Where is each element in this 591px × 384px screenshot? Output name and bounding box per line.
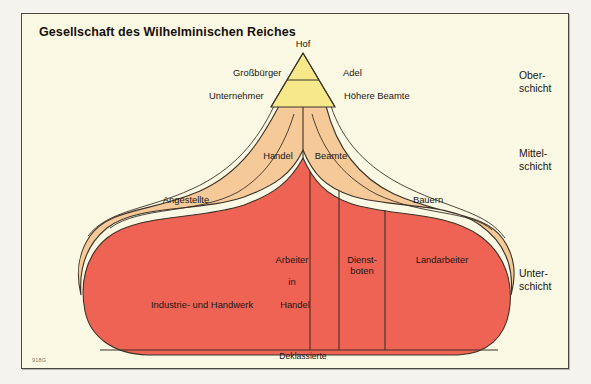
label-angestellte: Angestellte bbox=[163, 194, 209, 205]
label-arbeiter-in: in bbox=[288, 276, 295, 287]
label-adel: Adel bbox=[343, 67, 362, 78]
stratum-label-mittelschicht: Mittel- schicht bbox=[519, 148, 551, 173]
label-unternehmer: Unternehmer bbox=[209, 90, 264, 101]
stratum-label-unterschicht: Unter- schicht bbox=[519, 268, 551, 293]
label-deklassierte: Deklassierte bbox=[279, 351, 326, 362]
label-bauern: Bauern bbox=[413, 194, 443, 205]
label-dienstboten-text: Dienst- boten bbox=[347, 254, 377, 276]
label-industrie-und-handwerk: Industrie- und Handwerk bbox=[151, 299, 253, 310]
label-arbeiter-handel: Handel bbox=[280, 299, 310, 310]
figure-panel: Gesellschaft des Wilhelminischen Reiches… bbox=[21, 13, 569, 369]
label-grossbuerger: Großbürger bbox=[233, 67, 281, 78]
label-beamte: Beamte bbox=[315, 150, 347, 161]
plate-code: 918G bbox=[32, 357, 46, 363]
label-arbeiter: Arbeiter bbox=[276, 254, 309, 265]
label-handel-mitte: Handel bbox=[263, 150, 293, 161]
stratum-label-oberschicht: Ober- schicht bbox=[519, 70, 551, 95]
label-hoehere-beamte: Höhere Beamte bbox=[344, 90, 410, 101]
pyramid-diagram bbox=[22, 14, 570, 370]
label-hof: Hof bbox=[296, 38, 311, 49]
label-landarbeiter: Landarbeiter bbox=[416, 254, 469, 265]
label-dienstboten: Dienst- boten bbox=[347, 254, 377, 276]
